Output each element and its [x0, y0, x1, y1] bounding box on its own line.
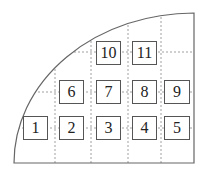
cell-8: 8	[132, 80, 157, 104]
cell-2: 2	[59, 116, 84, 140]
cell-7: 7	[96, 80, 121, 104]
cell-11: 11	[132, 41, 157, 65]
cell-3: 3	[96, 116, 121, 140]
cell-5: 5	[164, 116, 190, 140]
cell-4: 4	[132, 116, 157, 140]
cell-6: 6	[59, 80, 84, 104]
cell-10: 10	[96, 41, 121, 65]
cell-1: 1	[23, 116, 48, 140]
cell-9: 9	[164, 80, 190, 104]
quarter-circle-diagram: 1234567891011	[0, 0, 206, 174]
